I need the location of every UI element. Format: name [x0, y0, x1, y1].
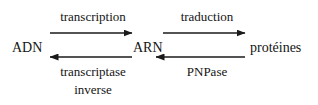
edge-label-pnpase: PNPase	[152, 65, 262, 80]
central-dogma-diagram: ADN ARN protéines transcription traducti…	[0, 0, 318, 105]
edge-label-transcription: transcription	[38, 10, 148, 25]
edge-label-transcriptase: transcriptase	[33, 65, 153, 80]
node-label-proteines: protéines	[250, 41, 301, 55]
edge-label-inverse: inverse	[33, 83, 153, 98]
edge-label-traduction: traduction	[157, 10, 257, 25]
node-label-arn: ARN	[133, 41, 163, 55]
node-label-adn: ADN	[12, 41, 42, 55]
